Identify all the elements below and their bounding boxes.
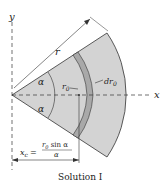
alpha-upper-label: α: [38, 77, 44, 87]
xc-formula-lhs: xc=: [20, 148, 37, 158]
xc-formula-denominator: α: [54, 151, 59, 159]
y-axis-label: y: [8, 11, 15, 22]
caption: Solution I: [58, 172, 103, 182]
radius-extension-line: [90, 17, 108, 31]
xc-arrowhead-left: [12, 158, 18, 162]
x-axis-label: x: [154, 89, 160, 100]
sector-diagram: y x r α α r0 dr0 xc= r0 sin α α Solution…: [0, 0, 165, 187]
xc-arrowhead-right: [73, 158, 79, 162]
radius-arrowhead: [84, 19, 90, 25]
xc-formula-numerator: r0 sin α: [42, 141, 68, 150]
radius-label: r: [55, 46, 61, 57]
alpha-lower-label: α: [38, 104, 44, 114]
